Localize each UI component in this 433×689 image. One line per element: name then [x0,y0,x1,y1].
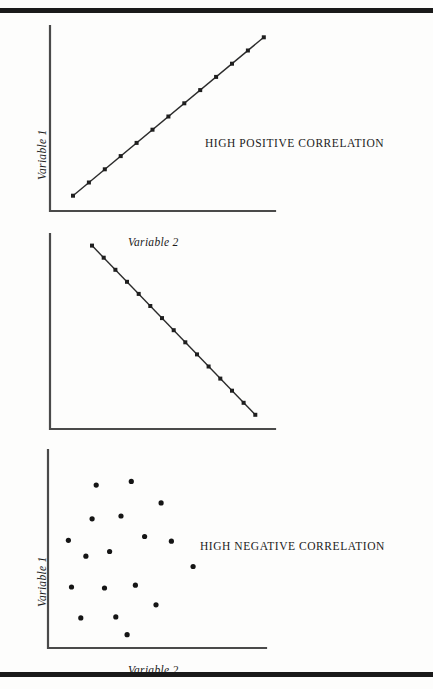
data-point-marker [262,35,266,39]
data-point-markers [90,244,257,417]
data-point-marker [242,401,246,405]
data-point-marker [166,115,170,119]
scatter-dot [153,602,158,607]
scatter-dot [118,513,123,518]
data-point-marker [125,280,129,284]
data-point-marker [198,88,202,92]
data-point-marker [135,141,139,145]
data-point-marker [148,304,152,308]
data-point-marker [195,352,199,356]
scatter-dot [159,500,164,505]
bottom-horizontal-rule [0,672,433,677]
data-point-marker [137,292,141,296]
scatter-dot [129,479,134,484]
scatter-dot [102,585,107,590]
data-point-marker [160,316,164,320]
plot-area-no-correlation [0,444,433,672]
scatter-dot [78,615,83,620]
chart-panel-high-negative: HIGH NEGATIVE CORRELATION Variable 2 Var… [0,232,433,450]
plot-area-high-negative [0,232,433,450]
data-point-marker [119,154,123,158]
top-horizontal-rule [0,8,433,13]
data-point-marker [214,75,218,79]
scatter-dot [125,632,130,637]
figure-page: HIGH POSITIVE CORRELATION Variable 2 Var… [0,0,433,689]
scatter-dot [83,554,88,559]
scatter-dot [66,538,71,543]
data-point-marker [182,101,186,105]
data-point-marker [183,340,187,344]
data-point-marker [151,128,155,132]
data-point-marker [207,365,211,369]
plot-area-high-positive [0,20,433,235]
scatter-dot [94,483,99,488]
scatter-dot [113,614,118,619]
axis-lines [50,26,275,211]
data-point-marker [102,256,106,260]
panel-caption-high-positive: HIGH POSITIVE CORRELATION [205,137,384,149]
data-point-markers [66,479,196,638]
scatter-dot [142,534,147,539]
data-point-marker [90,244,94,248]
scatter-dot [133,583,138,588]
scatter-dot [169,539,174,544]
scatter-dot [69,584,74,589]
scatter-dot [107,549,112,554]
data-point-marker [230,389,234,393]
data-point-marker [253,413,257,417]
y-axis-label: Variable 1 [36,129,48,180]
data-point-marker [172,328,176,332]
data-point-marker [103,167,107,171]
data-point-marker [113,268,117,272]
scatter-dot [191,564,196,569]
chart-panel-no-correlation: NO CORRELATION Variable 2 Variable 1 [0,444,433,672]
data-point-marker [87,181,91,185]
scatter-dot [90,516,95,521]
data-point-marker [246,49,250,53]
chart-panel-high-positive: HIGH POSITIVE CORRELATION Variable 2 Var… [0,20,433,235]
data-point-marker [230,62,234,66]
data-point-marker [71,194,75,198]
data-point-marker [218,377,222,381]
